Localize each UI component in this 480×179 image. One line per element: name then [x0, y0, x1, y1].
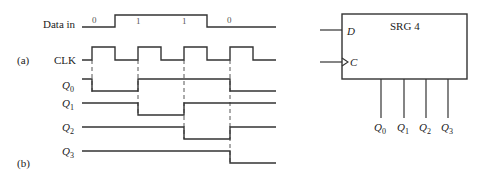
clk-label: CLK: [54, 54, 76, 66]
svg-text:2: 2: [70, 127, 74, 136]
svg-text:Q: Q: [374, 121, 382, 133]
svg-text:Q: Q: [419, 121, 427, 133]
q3-waveform: [82, 151, 276, 163]
srg4-title: SRG 4: [390, 20, 420, 32]
data-in-label: Data in: [43, 18, 76, 30]
q1-label: Q 1: [62, 97, 74, 112]
part-a-label: (a): [17, 54, 30, 67]
q0-label: Q 0: [62, 79, 74, 94]
q3-label: Q 3: [62, 145, 74, 160]
svg-text:Q: Q: [62, 121, 70, 133]
data-bit-1: 1: [136, 16, 141, 26]
svg-text:3: 3: [70, 151, 74, 160]
svg-text:3: 3: [449, 127, 453, 136]
data-in-waveform: [82, 15, 276, 27]
q2-output-label: Q 2: [419, 121, 431, 136]
svg-text:1: 1: [405, 127, 409, 136]
svg-text:0: 0: [382, 127, 386, 136]
svg-text:Q: Q: [441, 121, 449, 133]
d-input-label: D: [346, 25, 355, 37]
q1-waveform: [82, 103, 276, 115]
svg-text:Q: Q: [62, 79, 70, 91]
part-b-label: (b): [17, 157, 30, 170]
q2-waveform: [82, 127, 276, 139]
shift-register-diagram: (a) (b) Data in CLK Q 0 Q 1 Q 2 Q 3 0 1 …: [0, 0, 480, 179]
q0-waveform: [82, 79, 276, 91]
svg-text:Q: Q: [62, 97, 70, 109]
c-input-label: C: [350, 56, 358, 68]
data-bit-0: 0: [92, 15, 97, 25]
svg-text:0: 0: [70, 85, 74, 94]
svg-text:2: 2: [427, 127, 431, 136]
data-bit-2: 1: [182, 16, 187, 26]
q2-label: Q 2: [62, 121, 74, 136]
q1-output-label: Q 1: [397, 121, 409, 136]
svg-text:1: 1: [70, 103, 74, 112]
data-bit-3: 0: [227, 15, 232, 25]
q0-output-label: Q 0: [374, 121, 386, 136]
svg-text:Q: Q: [397, 121, 405, 133]
q3-output-label: Q 3: [441, 121, 453, 136]
svg-text:Q: Q: [62, 145, 70, 157]
clk-waveform: [82, 47, 276, 60]
